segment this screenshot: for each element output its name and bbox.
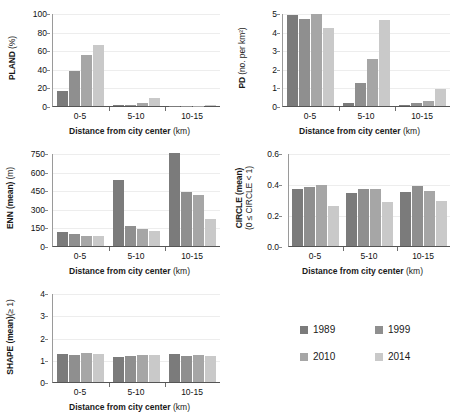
bar-2010-10-15 bbox=[193, 195, 204, 246]
bar-group-5-10 bbox=[343, 14, 390, 106]
x-axis-title-shape: Distance from city center (km) bbox=[30, 402, 229, 412]
y-tick-mark bbox=[45, 247, 48, 248]
bar-group-0-5 bbox=[57, 154, 104, 246]
legend-label: 2010 bbox=[313, 351, 335, 362]
bar-2010-10-15 bbox=[423, 101, 434, 106]
x-tick-label-5-10: 5-10 bbox=[110, 387, 162, 397]
y-tick-label: 150 bbox=[31, 223, 45, 233]
bar-1989-0-5 bbox=[57, 232, 68, 246]
y-tick-mark bbox=[45, 210, 48, 211]
bar-1989-0-5 bbox=[292, 189, 303, 246]
plot-area-shape bbox=[52, 294, 220, 383]
y-axis-title-main: SHAPE (mean) bbox=[5, 316, 15, 374]
bar-1989-10-15 bbox=[169, 153, 180, 246]
bar-1989-0-5 bbox=[57, 91, 68, 106]
bar-1999-5-10 bbox=[125, 105, 136, 106]
bar-1999-0-5 bbox=[69, 71, 80, 106]
y-tick-label: 0.4 bbox=[267, 180, 279, 190]
x-axis-title-pland: Distance from city center (km) bbox=[30, 126, 229, 136]
bar-group-0-5 bbox=[57, 14, 104, 106]
bar-2010-5-10 bbox=[370, 189, 381, 246]
y-axis-ticks-shape: 01234 bbox=[22, 294, 48, 383]
bar-2010-5-10 bbox=[367, 59, 378, 106]
y-axis-title-main: CIRCLE (mean) bbox=[234, 168, 244, 229]
x-tick-label-5-10: 5-10 bbox=[110, 251, 162, 261]
bar-1999-10-15 bbox=[411, 103, 422, 106]
y-tick-label: 100 bbox=[33, 9, 47, 19]
bar-2014-10-15 bbox=[205, 219, 216, 246]
legend-item-1999[interactable]: 1999 bbox=[375, 324, 450, 335]
x-axis-labels-enn: 0-55-1010-15 bbox=[52, 251, 220, 261]
y-tick-label: 60 bbox=[38, 46, 47, 56]
x-tick-label-10-15: 10-15 bbox=[166, 251, 218, 261]
plot-area-circle bbox=[288, 154, 450, 247]
y-tick-mark bbox=[45, 294, 48, 295]
y-tick-mark bbox=[279, 216, 282, 217]
y-tick-mark bbox=[277, 51, 280, 52]
y-axis-title-main: PD bbox=[237, 77, 247, 89]
x-axis-title-main: Distance from city center bbox=[69, 402, 171, 412]
bar-2010-10-15 bbox=[193, 355, 204, 382]
bar-series-container bbox=[289, 154, 450, 246]
bar-1999-5-10 bbox=[355, 83, 366, 106]
bar-1999-10-15 bbox=[181, 192, 192, 246]
bar-2014-0-5 bbox=[328, 206, 339, 246]
legend-item-1989[interactable]: 1989 bbox=[300, 324, 375, 335]
bar-group-5-10 bbox=[113, 154, 160, 246]
x-tick-label-0-5: 0-5 bbox=[54, 387, 106, 397]
y-tick-mark bbox=[47, 14, 50, 15]
legend-item-2014[interactable]: 2014 bbox=[375, 351, 450, 362]
chart-panel-circle: CIRCLE (mean) (0 ≤ CIRCLE < 1) 0.00.20.4… bbox=[230, 144, 459, 282]
y-tick-mark bbox=[45, 191, 48, 192]
bar-1999-5-10 bbox=[358, 189, 369, 246]
y-tick-mark bbox=[279, 247, 282, 248]
y-tick-mark bbox=[279, 154, 282, 155]
bar-1999-5-10 bbox=[125, 356, 136, 382]
x-axis-title-unit: (km) bbox=[406, 266, 423, 276]
y-tick-mark bbox=[47, 107, 50, 108]
bar-1989-10-15 bbox=[169, 354, 180, 382]
bar-group-10-15 bbox=[169, 294, 216, 382]
y-axis-title-unit: (0 ≤ CIRCLE < 1) bbox=[244, 166, 254, 230]
bar-2014-10-15 bbox=[436, 201, 447, 246]
x-axis-labels-pd: 0-55-1010-15 bbox=[282, 111, 450, 121]
y-axis-title-shape: SHAPE (mean)(≥ 1) bbox=[2, 286, 18, 388]
bar-2010-10-15 bbox=[424, 191, 435, 246]
bar-group-5-10 bbox=[113, 294, 160, 382]
y-axis-title-pland: PLAND (%) bbox=[4, 4, 20, 112]
bar-2014-0-5 bbox=[323, 28, 334, 106]
bar-1999-0-5 bbox=[299, 19, 310, 106]
figure-panel-grid: PLAND (%) 020406080100 0-55-1010-15 Dist… bbox=[0, 0, 459, 418]
y-tick-mark bbox=[45, 316, 48, 317]
plot-area-enn bbox=[52, 154, 220, 247]
y-tick-label: 40 bbox=[38, 65, 47, 75]
legend-label: 2014 bbox=[388, 351, 410, 362]
x-axis-title-unit: (km) bbox=[173, 126, 190, 136]
x-axis-title-main: Distance from city center bbox=[299, 126, 401, 136]
y-axis-ticks-pland: 020406080100 bbox=[24, 14, 50, 107]
x-axis-title-main: Distance from city center bbox=[69, 266, 171, 276]
bar-1999-0-5 bbox=[69, 355, 80, 382]
x-axis-title-enn: Distance from city center (km) bbox=[30, 266, 229, 276]
legend-swatch-icon bbox=[375, 353, 383, 361]
y-tick-mark bbox=[47, 33, 50, 34]
bar-2010-5-10 bbox=[137, 229, 148, 246]
x-axis-title-unit: (km) bbox=[403, 126, 420, 136]
x-tick-label-0-5: 0-5 bbox=[54, 251, 106, 261]
bar-2014-5-10 bbox=[149, 231, 160, 246]
x-tick-label-10-15: 10-15 bbox=[396, 111, 448, 121]
y-tick-label: 80 bbox=[38, 28, 47, 38]
y-tick-mark bbox=[277, 14, 280, 15]
legend-item-2010[interactable]: 2010 bbox=[300, 351, 375, 362]
bar-series-container bbox=[283, 14, 450, 106]
y-tick-mark bbox=[279, 185, 282, 186]
legend-swatch-icon bbox=[300, 353, 308, 361]
bar-series-container bbox=[53, 154, 220, 246]
y-axis-ticks-pd: 012345 bbox=[254, 14, 280, 107]
x-axis-title-pd: Distance from city center (km) bbox=[260, 126, 459, 136]
bar-group-5-10 bbox=[113, 14, 160, 106]
bar-2010-0-5 bbox=[81, 353, 92, 382]
y-tick-mark bbox=[47, 88, 50, 89]
x-axis-title-main: Distance from city center bbox=[69, 126, 171, 136]
y-tick-mark bbox=[45, 173, 48, 174]
